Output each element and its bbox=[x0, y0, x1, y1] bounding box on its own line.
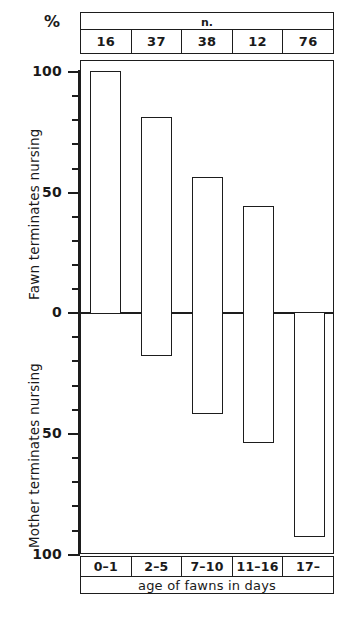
y-tick-label-lower-100: 100 bbox=[14, 546, 62, 562]
category-cell: 7–10 bbox=[182, 557, 233, 576]
y-tick-upper-50 bbox=[68, 192, 79, 194]
category-cell: 17– bbox=[283, 557, 333, 576]
bar-up-1 bbox=[141, 117, 172, 313]
y-tick-upper-70 bbox=[72, 143, 79, 145]
bar-up-0 bbox=[90, 71, 121, 313]
x-axis-label: age of fawns in days bbox=[138, 578, 276, 593]
category-cell: 11–16 bbox=[233, 557, 284, 576]
y-axis-title-upper: Fawn terminates nursing bbox=[26, 129, 42, 300]
sample-size-cell: 12 bbox=[233, 30, 284, 53]
y-tick-upper-60 bbox=[72, 168, 79, 170]
bar-down-3 bbox=[243, 313, 274, 443]
y-tick-lower-90 bbox=[72, 530, 79, 532]
category-cell: 2–5 bbox=[132, 557, 183, 576]
bar-down-1 bbox=[141, 313, 172, 356]
y-tick-label-zero: 0 bbox=[14, 304, 62, 320]
y-tick-lower-100 bbox=[68, 554, 79, 556]
y-tick-upper-100 bbox=[68, 71, 79, 73]
percent-unit-label: % bbox=[44, 12, 60, 31]
y-tick-upper-20 bbox=[72, 264, 79, 266]
y-tick-label-upper-100: 100 bbox=[14, 63, 62, 79]
y-tick-lower-20 bbox=[72, 360, 79, 362]
bar-down-2 bbox=[192, 313, 223, 414]
bar-down-4 bbox=[294, 313, 325, 537]
sample-size-cell: 16 bbox=[81, 30, 132, 53]
y-tick-upper-90 bbox=[72, 95, 79, 97]
sample-size-cell: 38 bbox=[182, 30, 233, 53]
category-axis-table: 0–1 2–5 7–10 11–16 17– age of fawns in d… bbox=[80, 556, 334, 594]
y-tick-upper-80 bbox=[72, 119, 79, 121]
sample-size-cell: 37 bbox=[132, 30, 183, 53]
bar-up-2 bbox=[192, 177, 223, 313]
sample-size-table: n. 16 37 38 12 76 bbox=[80, 12, 334, 54]
sample-size-cell: 76 bbox=[283, 30, 333, 53]
sample-size-header-row: n. bbox=[81, 13, 333, 30]
y-tick-lower-10 bbox=[72, 336, 79, 338]
y-tick-lower-60 bbox=[72, 457, 79, 459]
y-axis-title-lower: Mother terminates nursing bbox=[26, 363, 42, 548]
y-tick-zero bbox=[68, 312, 79, 314]
figure-canvas: % n. 16 37 38 12 76 100 50 0 50 10 bbox=[0, 0, 360, 618]
category-cell: 0–1 bbox=[81, 557, 132, 576]
y-tick-upper-30 bbox=[72, 240, 79, 242]
y-tick-lower-50 bbox=[68, 433, 79, 435]
y-tick-lower-40 bbox=[72, 409, 79, 411]
y-tick-lower-80 bbox=[72, 505, 79, 507]
y-tick-lower-30 bbox=[72, 385, 79, 387]
sample-size-header-label: n. bbox=[201, 17, 213, 28]
bar-up-3 bbox=[243, 206, 274, 313]
y-tick-lower-70 bbox=[72, 481, 79, 483]
sample-size-value-row: 16 37 38 12 76 bbox=[81, 30, 333, 53]
y-tick-upper-40 bbox=[72, 216, 79, 218]
x-axis-label-row: age of fawns in days bbox=[81, 577, 333, 593]
category-label-row: 0–1 2–5 7–10 11–16 17– bbox=[81, 557, 333, 577]
y-tick-upper-10 bbox=[72, 288, 79, 290]
